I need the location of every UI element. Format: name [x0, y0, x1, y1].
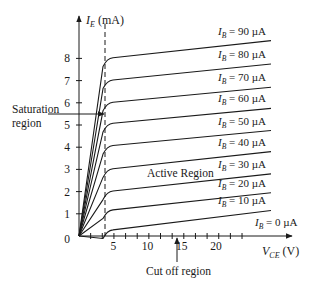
- y-tick-label: 1: [64, 208, 70, 220]
- curve-label: IB = 60 µA: [217, 92, 266, 107]
- y-tick-label: 7: [64, 75, 70, 87]
- y-tick-label: 0: [64, 233, 70, 245]
- x-tick-label: 15: [176, 240, 188, 252]
- y-axis-label: IE (mA): [85, 13, 124, 29]
- cutoff-curve-label: IB = 0 µA: [254, 216, 298, 231]
- x-tick-label: 10: [142, 240, 154, 252]
- cutoff-region-label: Cut off region: [146, 265, 211, 278]
- y-tick-label: 6: [64, 97, 70, 109]
- y-tick-label: 8: [64, 52, 70, 64]
- chart-canvas: IE (mA) VCE (V) 5101520012345678 IB = 90…: [0, 0, 333, 282]
- active-region-label: Active Region: [147, 167, 214, 180]
- y-tick-label: 4: [64, 141, 70, 153]
- saturation-label-line2: region: [12, 117, 42, 130]
- curve-label: IB = 80 µA: [217, 48, 266, 63]
- x-tick-label: 5: [110, 240, 116, 252]
- curve-label: IB = 50 µA: [217, 115, 266, 130]
- transistor-characteristic-chart: IE (mA) VCE (V) 5101520012345678 IB = 90…: [0, 0, 333, 282]
- x-tick-label: 20: [210, 240, 222, 252]
- curve-label: IB = 10 µA: [217, 194, 266, 209]
- y-tick-label: 2: [64, 186, 70, 198]
- curve-label: IB = 30 µA: [217, 158, 266, 173]
- y-tick-label: 5: [64, 119, 70, 131]
- saturation-label: Saturation: [12, 103, 60, 115]
- curve-label: IB = 40 µA: [217, 136, 266, 151]
- x-axis-label: VCE (V): [262, 244, 299, 260]
- curve-label: IB = 90 µA: [217, 25, 266, 40]
- curve-labels: IB = 90 µAIB = 80 µAIB = 70 µAIB = 60 µA…: [217, 25, 298, 231]
- y-tick-label: 3: [64, 163, 70, 175]
- curve-label: IB = 70 µA: [217, 71, 266, 86]
